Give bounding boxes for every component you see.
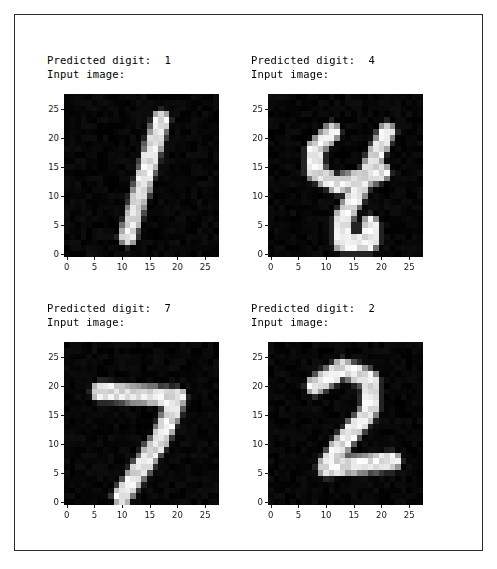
subplot-bottom-right-axes: 00551010151520202525: [268, 342, 423, 505]
y-tick-mark: [265, 502, 268, 503]
y-tick-mark: [265, 357, 268, 358]
x-tick-label: 10: [321, 510, 332, 520]
x-tick-mark: [271, 505, 272, 508]
predicted-digit-label: Predicted digit: 2: [251, 302, 375, 316]
screenshot-root: Predicted digit: 1Input image:0055101015…: [0, 0, 497, 569]
y-tick-label: 15: [244, 410, 263, 420]
x-tick-label: 15: [348, 510, 359, 520]
figure-frame: Predicted digit: 1Input image:0055101015…: [14, 14, 483, 551]
y-tick-label: 25: [244, 352, 263, 362]
subplot-bottom-right: Predicted digit: 2Input image:0055101015…: [15, 15, 482, 550]
y-tick-label: 10: [244, 439, 263, 449]
y-tick-label: 0: [244, 497, 263, 507]
y-tick-mark: [265, 473, 268, 474]
y-tick-mark: [265, 415, 268, 416]
x-tick-mark: [326, 505, 327, 508]
subplot-bottom-right-digit-image: [268, 342, 423, 505]
y-tick-mark: [265, 444, 268, 445]
x-tick-mark: [298, 505, 299, 508]
subplot-bottom-right-title: Predicted digit: 2Input image:: [251, 302, 375, 329]
x-tick-label: 25: [404, 510, 415, 520]
x-tick-mark: [381, 505, 382, 508]
y-tick-label: 20: [244, 381, 263, 391]
x-tick-label: 20: [376, 510, 387, 520]
x-tick-mark: [409, 505, 410, 508]
input-image-label: Input image:: [251, 316, 375, 330]
x-tick-label: 0: [268, 510, 273, 520]
y-tick-mark: [265, 386, 268, 387]
x-tick-mark: [354, 505, 355, 508]
y-tick-label: 5: [244, 468, 263, 478]
x-tick-label: 5: [296, 510, 301, 520]
